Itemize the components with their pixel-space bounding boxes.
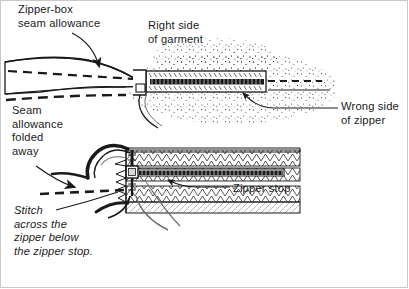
- label-seam-allowance-folded-away: Seam allowance folded away: [12, 104, 63, 158]
- lower-zipper-teeth: [136, 169, 284, 176]
- label-wrong-side-of-zipper: Wrong side of zipper: [341, 100, 399, 127]
- zipper-diagram-figure: Zipper-box seam allowance Right side of …: [0, 0, 409, 289]
- label-stitch-instruction: Stitch across the zipper below the zippe…: [14, 204, 93, 258]
- label-right-side-of-garment: Right side of garment: [148, 19, 203, 46]
- upper-zipper-box: [133, 70, 146, 95]
- lower-garment-panel: [126, 148, 300, 213]
- label-zipper-stop: Zipper stop: [233, 182, 291, 196]
- lower-dashed-seamline: [40, 190, 124, 194]
- label-zipper-box-seam-allowance: Zipper-box seam allowance: [18, 3, 100, 30]
- fold-away-arrow: [36, 166, 74, 187]
